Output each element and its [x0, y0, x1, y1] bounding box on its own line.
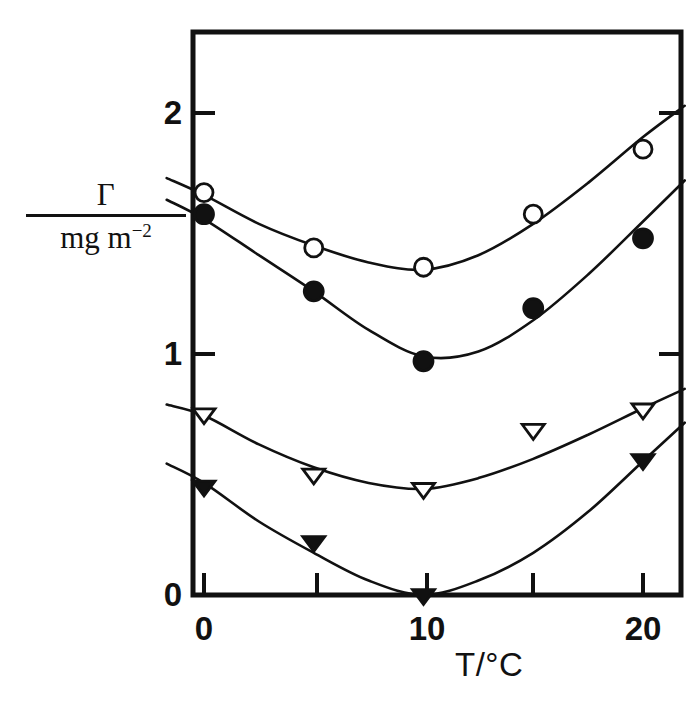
data-series-layer — [167, 106, 685, 605]
data-point-open-triangle-5 — [303, 469, 325, 484]
data-point-filled-circle-5 — [304, 282, 323, 301]
curve-filled-triangle — [167, 423, 685, 595]
data-point-open-circle-15 — [524, 205, 542, 223]
data-point-filled-circle-10 — [414, 352, 433, 371]
data-point-open-circle-5 — [305, 239, 323, 257]
frame-rect — [193, 32, 681, 595]
series-open-circle — [167, 106, 685, 276]
data-point-open-triangle-15 — [522, 424, 544, 439]
data-point-filled-circle-0 — [195, 205, 214, 224]
figure-canvas: Γ mg m−2 0 1 2 0 10 20 T/°C — [0, 0, 698, 711]
data-point-open-circle-20 — [634, 140, 652, 158]
y-axis-ticks — [193, 113, 215, 354]
curve-open-triangle — [167, 389, 685, 489]
data-point-open-circle-0 — [195, 184, 213, 202]
y-axis-ticks-right — [659, 113, 681, 354]
axis-frame — [193, 32, 681, 595]
data-point-filled-circle-15 — [524, 299, 543, 318]
data-point-open-triangle-10 — [413, 484, 435, 499]
series-open-triangle — [167, 389, 685, 498]
data-point-open-circle-10 — [415, 258, 433, 276]
data-point-filled-circle-20 — [634, 229, 653, 248]
plot-area — [0, 0, 698, 711]
data-point-open-triangle-0 — [193, 409, 215, 424]
